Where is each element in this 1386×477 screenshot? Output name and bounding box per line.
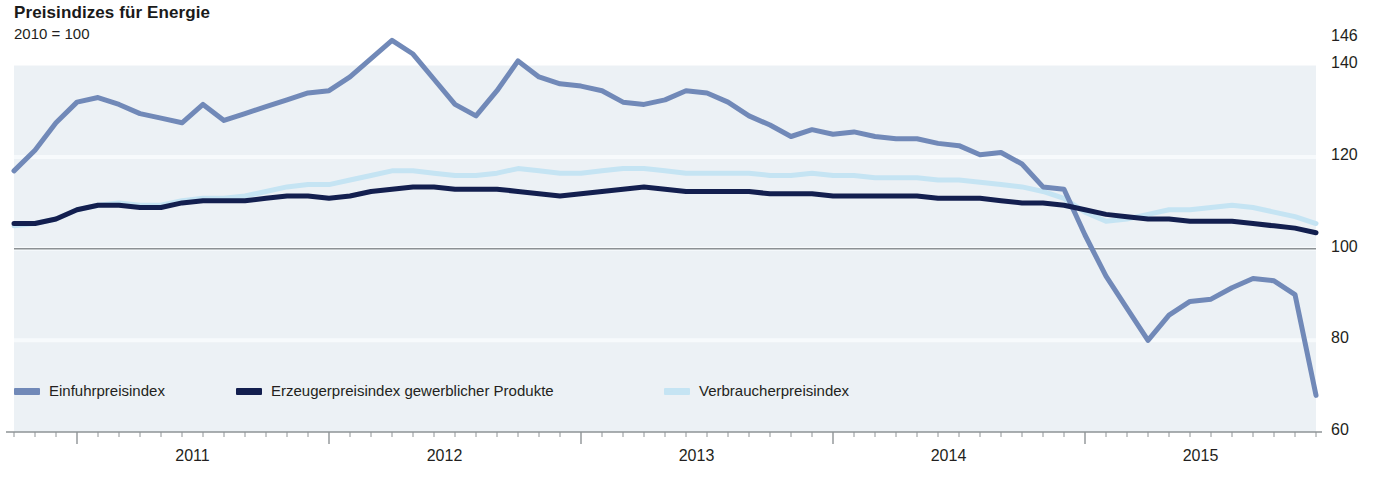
x-axis-labels: 20112012201320142015 [0,0,1386,477]
legend-swatch-icon [14,388,40,395]
chart-figure: Preisindizes für Energie 2010 = 100 6080… [0,0,1386,477]
x-tick-label-2015: 2015 [1183,447,1219,465]
legend-label: Einfuhrpreisindex [49,380,165,402]
x-tick-label-2011: 2011 [175,447,209,465]
legend-label: Verbraucherpreisindex [699,380,849,402]
legend-label: Erzeugerpreisindex gewerblicher Produkte [271,380,554,402]
legend-item-1[interactable]: Einfuhrpreisindex [14,380,165,402]
x-tick-label-2014: 2014 [931,447,967,465]
x-tick-label-2012: 2012 [427,447,463,465]
legend-swatch-icon [236,388,262,395]
legend-swatch-icon [664,388,690,395]
legend-item-3[interactable]: Verbraucherpreisindex [664,380,849,402]
x-tick-label-2013: 2013 [679,447,715,465]
legend-item-2[interactable]: Erzeugerpreisindex gewerblicher Produkte [236,380,554,402]
